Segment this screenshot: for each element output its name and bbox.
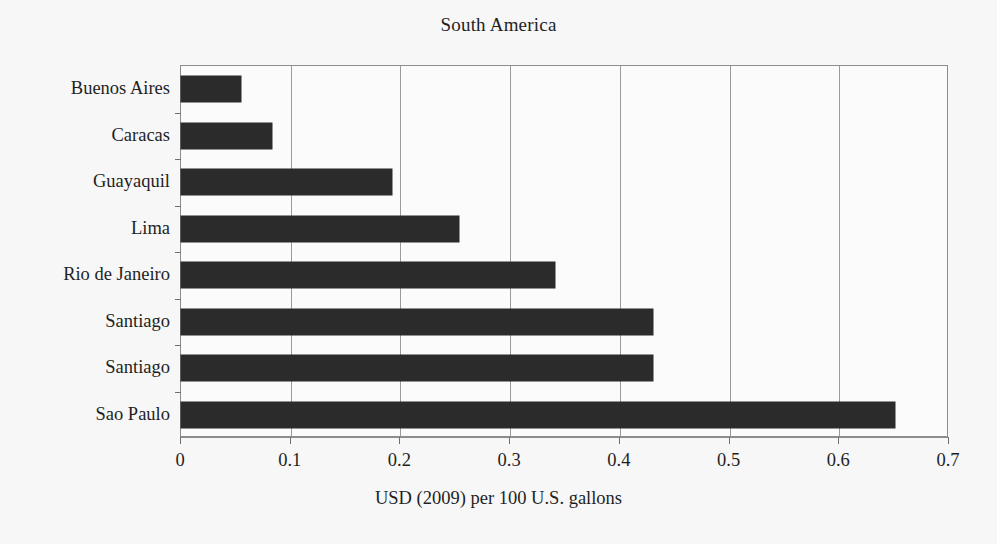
y-axis-tick-label: Lima [0, 205, 170, 252]
x-axis-tick-label: 0 [175, 449, 184, 471]
bar [181, 123, 272, 149]
y-axis-label-group: Buenos AiresCaracasGuayaquilLimaRio de J… [0, 65, 170, 437]
x-axis-tick [619, 437, 620, 444]
y-axis-tick-label: Santiago [0, 344, 170, 391]
bar-row [181, 159, 947, 206]
x-axis: 00.10.20.30.40.50.60.7 [180, 437, 948, 438]
y-axis-tick-label: Rio de Janeiro [0, 251, 170, 298]
y-axis-tick-label: Caracas [0, 112, 170, 159]
bar [181, 216, 459, 242]
chart-figure: South America Buenos AiresCaracasGuayaqu… [0, 0, 997, 544]
x-axis-tick [399, 437, 400, 444]
x-axis-tick [180, 437, 181, 444]
x-axis-tick [509, 437, 510, 444]
y-axis-tick-label: Buenos Aires [0, 65, 170, 112]
bar-row [181, 206, 947, 253]
x-axis-tick-label: 0.3 [498, 449, 521, 471]
x-axis-tick [290, 437, 291, 444]
bar-row [181, 113, 947, 160]
bar [181, 402, 895, 428]
y-axis-tick-label: Sao Paulo [0, 391, 170, 438]
bar [181, 76, 241, 102]
bar [181, 169, 392, 195]
bar [181, 262, 555, 288]
x-axis-tick-label: 0.4 [607, 449, 630, 471]
bar-row [181, 345, 947, 392]
x-axis-tick-label: 0.2 [388, 449, 411, 471]
x-axis-title: USD (2009) per 100 U.S. gallons [0, 487, 997, 509]
chart-title: South America [0, 14, 997, 36]
bar-row [181, 252, 947, 299]
y-axis-tick-label: Guayaquil [0, 158, 170, 205]
x-axis-tick-label: 0.1 [278, 449, 301, 471]
bar-row [181, 392, 947, 439]
bar-row [181, 66, 947, 113]
bar-row [181, 299, 947, 346]
x-axis-tick-label: 0.7 [936, 449, 959, 471]
plot-area [180, 65, 948, 437]
x-axis-tick [729, 437, 730, 444]
y-axis-tick-label: Santiago [0, 298, 170, 345]
x-axis-tick [838, 437, 839, 444]
x-axis-tick-label: 0.6 [827, 449, 850, 471]
x-axis-tick-label: 0.5 [717, 449, 740, 471]
x-axis-tick [948, 437, 949, 444]
bar [181, 309, 653, 335]
bar [181, 355, 653, 381]
